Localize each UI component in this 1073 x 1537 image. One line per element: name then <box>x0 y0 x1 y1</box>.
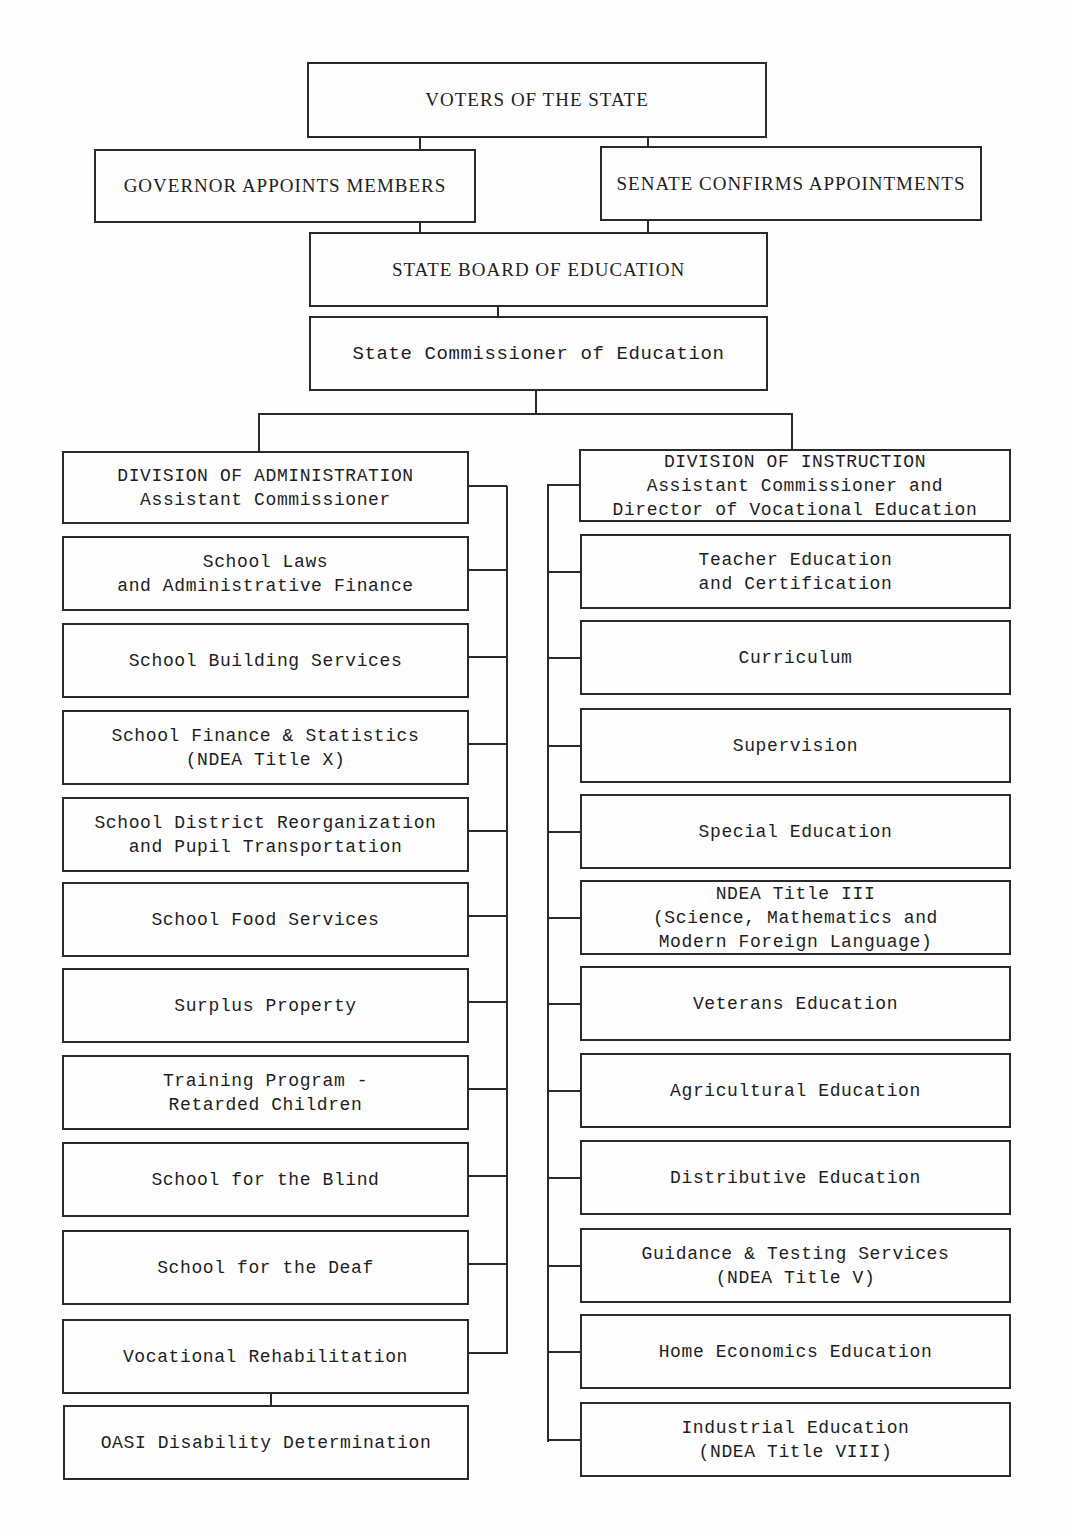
box-text-line: School Finance & Statistics <box>112 724 420 748</box>
oasi-disability-determination-box: OASI Disability Determination <box>63 1405 469 1480</box>
governor-box: GOVERNOR APPOINTS MEMBERS <box>94 149 476 223</box>
box-text-line: Vocational Rehabilitation <box>123 1345 408 1369</box>
connector <box>547 1351 580 1353</box>
division-of-instruction-box: DIVISION OF INSTRUCTIONAssistant Commiss… <box>579 449 1011 522</box>
instr-unit-ndea-title-iii-science-mathematics-and-modern-foreign-language: NDEA Title III(Science, Mathematics andM… <box>580 880 1011 955</box>
connector <box>547 1265 580 1267</box>
box-text-line: Training Program - <box>163 1069 368 1093</box>
connector <box>258 413 260 451</box>
connector <box>469 1352 507 1354</box>
box-text-line: (NDEA Title V) <box>716 1266 876 1290</box>
connector <box>469 1001 507 1003</box>
connector <box>547 1439 580 1441</box>
box-text-line: (NDEA Title VIII) <box>699 1440 893 1464</box>
instr-unit-curriculum: Curriculum <box>580 620 1011 695</box>
box-text-line: and Pupil Transportation <box>129 835 403 859</box>
instr-unit-veterans-education: Veterans Education <box>580 966 1011 1041</box>
admin-unit-school-district-reorganization-and-pupil-transportation: School District Reorganizationand Pupil … <box>62 797 469 872</box>
connector <box>547 484 579 486</box>
box-text-line: OASI Disability Determination <box>101 1431 432 1455</box>
box-text-line: (NDEA Title X) <box>186 748 346 772</box>
connector <box>469 485 507 487</box>
connector <box>547 1177 580 1179</box>
connector <box>547 745 580 747</box>
box-text-line: School Building Services <box>129 649 403 673</box>
instr-unit-supervision: Supervision <box>580 708 1011 783</box>
connector <box>547 1090 580 1092</box>
instr-unit-distributive-education: Distributive Education <box>580 1140 1011 1215</box>
box-text-line: DIVISION OF INSTRUCTION <box>664 450 926 474</box>
box-text-line: NDEA Title III <box>716 882 876 906</box>
box-text-line: Teacher Education <box>699 548 893 572</box>
instr-unit-guidance-testing-services-ndea-title-v: Guidance & Testing Services(NDEA Title V… <box>580 1228 1011 1303</box>
connector <box>469 830 507 832</box>
division-of-administration-box: DIVISION OF ADMINISTRATIONAssistant Comm… <box>62 451 469 524</box>
state-board-label: STATE BOARD OF EDUCATION <box>392 258 685 282</box>
box-text-line: School Laws <box>203 550 328 574</box>
admin-unit-school-laws-and-administrative-finance: School Lawsand Administrative Finance <box>62 536 469 611</box>
box-text-line: Surplus Property <box>174 994 356 1018</box>
box-text-line: Retarded Children <box>169 1093 363 1117</box>
box-text-line: Guidance & Testing Services <box>642 1242 950 1266</box>
instr-unit-agricultural-education: Agricultural Education <box>580 1053 1011 1128</box>
instr-unit-home-economics-education: Home Economics Education <box>580 1314 1011 1389</box>
connector <box>791 413 793 450</box>
admin-bracket-spine <box>506 486 508 1354</box>
connector <box>547 917 580 919</box>
governor-label: GOVERNOR APPOINTS MEMBERS <box>124 174 447 198</box>
box-text-line: School for the Blind <box>151 1168 379 1192</box>
senate-label: SENATE CONFIRMS APPOINTMENTS <box>617 172 966 196</box>
instr-unit-industrial-education-ndea-title-viii: Industrial Education(NDEA Title VIII) <box>580 1402 1011 1477</box>
box-text-line: Supervision <box>733 734 858 758</box>
connector <box>535 391 537 415</box>
senate-box: SENATE CONFIRMS APPOINTMENTS <box>600 146 982 221</box>
commissioner-box: State Commissioner of Education <box>309 316 768 391</box>
connector <box>469 1088 507 1090</box>
voters-label: VOTERS OF THE STATE <box>425 88 649 112</box>
connector <box>547 1003 580 1005</box>
connector <box>469 1175 507 1177</box>
connector <box>547 831 580 833</box>
admin-unit-school-for-the-deaf: School for the Deaf <box>62 1230 469 1305</box>
admin-unit-surplus-property: Surplus Property <box>62 968 469 1043</box>
box-text-line: School for the Deaf <box>157 1256 374 1280</box>
connector <box>258 413 793 415</box>
box-text-line: Director of Vocational Education <box>613 498 978 522</box>
connector <box>469 743 507 745</box>
box-text-line: and Administrative Finance <box>117 574 413 598</box>
box-text-line: Modern Foreign Language) <box>659 930 933 954</box>
connector <box>469 656 507 658</box>
admin-unit-school-for-the-blind: School for the Blind <box>62 1142 469 1217</box>
box-text-line: Veterans Education <box>693 992 898 1016</box>
state-board-box: STATE BOARD OF EDUCATION <box>309 232 768 307</box>
box-text-line: School Food Services <box>151 908 379 932</box>
admin-unit-school-finance-statistics-ndea-title-x: School Finance & Statistics(NDEA Title X… <box>62 710 469 785</box>
instr-unit-special-education: Special Education <box>580 794 1011 869</box>
box-text-line: DIVISION OF ADMINISTRATION <box>117 464 413 488</box>
box-text-line: (Science, Mathematics and <box>653 906 938 930</box>
instr-unit-teacher-education-and-certification: Teacher Educationand Certification <box>580 534 1011 609</box>
connector <box>547 571 580 573</box>
box-text-line: Curriculum <box>738 646 852 670</box>
connector <box>469 569 507 571</box>
box-text-line: and Certification <box>699 572 893 596</box>
box-text-line: Agricultural Education <box>670 1079 921 1103</box>
admin-unit-school-building-services: School Building Services <box>62 623 469 698</box>
admin-unit-vocational-rehabilitation: Vocational Rehabilitation <box>62 1319 469 1394</box>
admin-unit-school-food-services: School Food Services <box>62 882 469 957</box>
box-text-line: Distributive Education <box>670 1166 921 1190</box>
box-text-line: Special Education <box>699 820 893 844</box>
instr-bracket-spine <box>547 484 549 1442</box>
commissioner-label: State Commissioner of Education <box>352 342 724 366</box>
box-text-line: Home Economics Education <box>659 1340 933 1364</box>
box-text-line: Assistant Commissioner <box>140 488 391 512</box>
box-text-line: Industrial Education <box>681 1416 909 1440</box>
box-text-line: Assistant Commissioner and <box>647 474 943 498</box>
voters-of-the-state-box: VOTERS OF THE STATE <box>307 62 767 138</box>
connector <box>547 657 580 659</box>
connector <box>469 915 507 917</box>
connector <box>469 1263 507 1265</box>
box-text-line: School District Reorganization <box>94 811 436 835</box>
admin-unit-training-program-retarded-children: Training Program -Retarded Children <box>62 1055 469 1130</box>
